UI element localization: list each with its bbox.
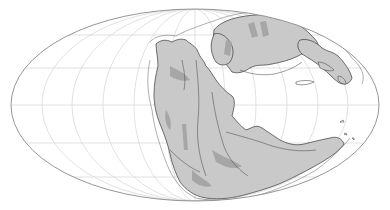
mollweide-map: [0, 0, 390, 210]
map-container: Paleogeographic reconstruction (Pangaea): [0, 0, 390, 210]
